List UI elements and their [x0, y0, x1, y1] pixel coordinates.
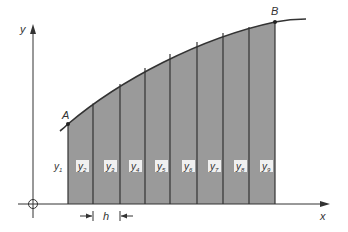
- shaded-area: [68, 22, 275, 204]
- y-axis-label: y: [19, 23, 27, 35]
- strip-width-label: h: [103, 210, 109, 222]
- x-axis-arrow-icon: [320, 201, 330, 207]
- ordinate-labels: y1 y2 y3 y4 y5 y6 y7 y8 y9: [53, 160, 273, 173]
- point-b-label: B: [271, 5, 278, 17]
- point-a-label: A: [61, 109, 69, 121]
- x-axis-label: x: [319, 210, 326, 222]
- point-b-marker: [273, 20, 277, 24]
- y-axis-arrow-icon: [30, 24, 36, 34]
- point-a-marker: [66, 122, 70, 126]
- arrow-right-icon: [86, 214, 92, 219]
- arrow-left-icon: [121, 214, 127, 219]
- area-strips-diagram: A B y x y1 y2 y3 y4 y5 y6 y7 y8 y9: [0, 0, 348, 232]
- ordinate-label-y1: y1: [53, 161, 62, 173]
